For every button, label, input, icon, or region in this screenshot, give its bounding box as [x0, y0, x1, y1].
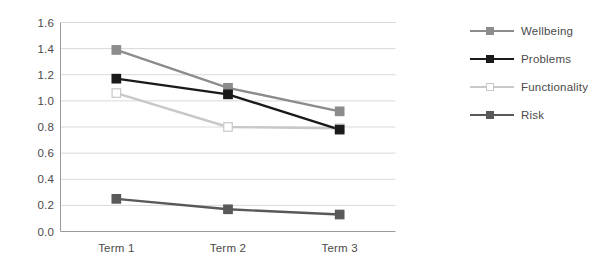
y-tick-label: 1.0	[20, 95, 54, 106]
x-tick-label: Term 3	[321, 242, 357, 254]
y-tick-label: 1.4	[20, 43, 54, 54]
y-tick-label: 0.6	[20, 148, 54, 159]
y-tick-label: 0.8	[20, 122, 54, 133]
legend-label: Problems	[521, 53, 571, 65]
legend-item-wellbeing[interactable]: Wellbeing	[470, 18, 590, 43]
legend-key-icon	[470, 109, 514, 121]
legend-label: Risk	[521, 109, 544, 121]
data-point-risk-1	[224, 205, 233, 214]
line-chart: 0.00.20.40.60.81.01.21.41.6 Term 1Term 2…	[0, 0, 594, 257]
y-tick-label: 1.2	[20, 69, 54, 80]
data-point-problems-1	[224, 90, 233, 99]
legend-item-risk[interactable]: Risk	[470, 102, 590, 127]
y-tick-label: 0.2	[20, 200, 54, 211]
y-tick-label: 0.4	[20, 174, 54, 185]
chart-legend: WellbeingProblemsFunctionalityRisk	[470, 18, 590, 130]
series-markers	[112, 46, 344, 219]
data-point-problems-2	[335, 125, 344, 134]
legend-marker-square-icon	[486, 111, 494, 119]
data-point-risk-2	[335, 210, 344, 219]
legend-marker-square-icon	[486, 55, 494, 63]
legend-item-functionality[interactable]: Functionality	[470, 74, 590, 99]
data-point-risk-0	[112, 195, 121, 204]
legend-item-problems[interactable]: Problems	[470, 46, 590, 71]
legend-key-icon	[470, 25, 514, 37]
data-point-wellbeing-0	[112, 46, 121, 55]
data-point-functionality-0	[112, 89, 121, 98]
x-tick-label: Term 2	[210, 242, 246, 254]
gridlines	[61, 23, 396, 206]
x-tick-label: Term 1	[98, 242, 134, 254]
y-tick-label: 1.6	[20, 17, 54, 28]
legend-label: Wellbeing	[521, 25, 573, 37]
legend-key-icon	[470, 53, 514, 65]
legend-label: Functionality	[521, 81, 588, 93]
data-point-functionality-1	[224, 123, 233, 132]
data-point-wellbeing-2	[335, 107, 344, 116]
x-axis-tick-labels: Term 1Term 2Term 3	[0, 236, 594, 256]
legend-marker-square-icon	[486, 27, 494, 35]
legend-marker-square-icon	[486, 83, 494, 91]
data-point-problems-0	[112, 74, 121, 83]
y-axis-tick-labels: 0.00.20.40.60.81.01.21.41.6	[16, 0, 54, 257]
legend-key-icon	[470, 81, 514, 93]
